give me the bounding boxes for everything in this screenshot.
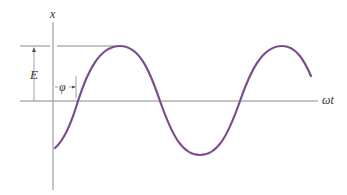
phase-arrowhead-icon [72,86,76,89]
vertical-axis-label: x [49,7,56,21]
horizontal-axis-label: ωt [322,93,334,107]
phase-label: φ [59,80,66,94]
sinusoid-diagram: x ωt E φ [0,0,347,195]
amplitude-label: E [29,67,38,82]
amplitude-arrowhead-icon [32,47,36,52]
